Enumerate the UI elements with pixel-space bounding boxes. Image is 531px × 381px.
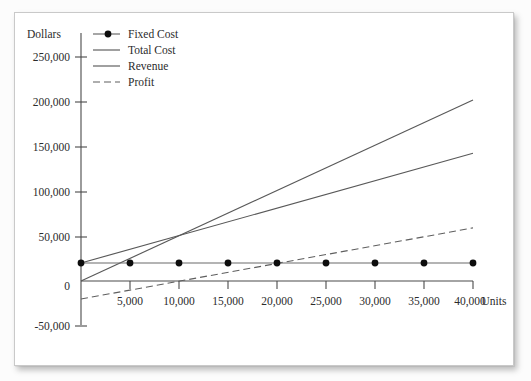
x-tick-label-35000: 35,000 [408,295,440,308]
y-tick-label-100000: 100,000 [33,186,71,199]
series-line-revenue [81,100,473,281]
data-point-fixed-cost-25000 [323,260,330,267]
screenshot-root: 250,000 200,000 150,000 100,000 50,000 0… [0,0,531,381]
chart-legend: Fixed Cost Total Cost Revenue [93,28,179,88]
y-axis-tick-labels: 250,000 200,000 150,000 100,000 50,000 0… [33,51,71,333]
legend-item-profit: Profit [93,76,155,88]
data-point-fixed-cost-35000 [421,260,428,267]
data-point-fixed-cost-10000 [176,260,183,267]
x-tick-label-5000: 5,000 [117,295,143,308]
data-point-fixed-cost-40000 [470,260,477,267]
x-tick-label-20000: 20,000 [261,295,293,308]
x-tick-label-15000: 15,000 [212,295,244,308]
legend-item-fixed-cost: Fixed Cost [93,28,179,40]
x-axis-ticks [130,281,473,289]
y-axis-title: Dollars [27,28,61,40]
y-tick-label-200000: 200,000 [33,96,71,109]
chart-svg: 250,000 200,000 150,000 100,000 50,000 0… [15,13,513,365]
legend-label-profit: Profit [128,76,155,88]
y-tick-label-neg50000: -50,000 [35,320,71,333]
legend-item-total-cost: Total Cost [93,44,176,56]
data-point-fixed-cost-0 [78,260,85,267]
chart-canvas: 250,000 200,000 150,000 100,000 50,000 0… [15,13,513,365]
legend-dot-marker-icon-fixed-cost [105,31,112,38]
legend-label-revenue: Revenue [128,60,168,72]
x-tick-label-30000: 30,000 [359,295,391,308]
data-point-fixed-cost-5000 [127,260,134,267]
x-tick-label-25000: 25,000 [310,295,342,308]
x-tick-label-10000: 10,000 [163,295,195,308]
y-tick-label-150000: 150,000 [33,141,71,154]
series-line-total-cost [81,153,473,263]
data-point-fixed-cost-20000 [274,260,281,267]
y-tick-label-250000: 250,000 [33,51,71,64]
chart-page-frame: 250,000 200,000 150,000 100,000 50,000 0… [14,12,514,366]
legend-item-revenue: Revenue [93,60,168,72]
y-tick-label-50000: 50,000 [38,231,70,244]
data-point-fixed-cost-15000 [225,260,232,267]
y-tick-label-0: 0 [64,280,70,292]
cost-volume-profit-chart: 250,000 200,000 150,000 100,000 50,000 0… [15,13,513,365]
data-point-fixed-cost-30000 [372,260,379,267]
x-axis-title: Units [482,295,507,307]
legend-label-fixed-cost: Fixed Cost [128,28,179,40]
legend-label-total-cost: Total Cost [128,44,176,56]
x-axis-tick-labels: 5,000 10,000 15,000 20,000 25,000 30,000… [117,295,507,308]
